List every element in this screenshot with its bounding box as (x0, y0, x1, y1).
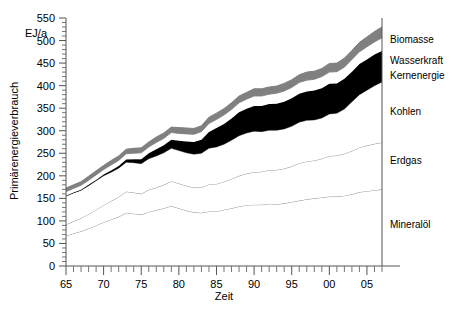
y-tick-label: 100 (37, 215, 55, 227)
x-tick-label: 85 (210, 278, 222, 290)
x-tick-label: 70 (97, 278, 109, 290)
y-tick-label: 550 (37, 12, 55, 24)
x-axis: 657075808590950005 (60, 266, 382, 290)
plot-area (66, 27, 382, 266)
x-tick-label: 75 (135, 278, 147, 290)
y-tick-label: 50 (43, 237, 55, 249)
x-tick-label: 90 (248, 278, 260, 290)
y-tick-label: 450 (37, 57, 55, 69)
x-tick-label: 00 (323, 278, 335, 290)
x-tick-label: 65 (60, 278, 72, 290)
primary-energy-consumption-chart: Primärenergieverbrauch EJ/a 050100150200… (0, 0, 452, 314)
y-axis-title: Primärenergieverbrauch (8, 82, 20, 200)
series-label-kohlen: Kohlen (390, 106, 421, 117)
chart-canvas: Primärenergieverbrauch EJ/a 050100150200… (0, 0, 452, 314)
y-tick-label: 0 (49, 260, 55, 272)
series-label-mineralöl: Mineralöl (390, 219, 431, 230)
y-tick-label: 400 (37, 80, 55, 92)
series-legend: BiomasseWasserkraftKernenergieKohlenErdg… (390, 34, 445, 230)
series-label-biomasse: Biomasse (390, 34, 434, 45)
y-tick-label: 500 (37, 35, 55, 47)
series-label-kernenergie: Kernenergie (390, 70, 445, 81)
x-axis-title: Zeit (215, 290, 233, 302)
x-tick-label: 80 (173, 278, 185, 290)
y-tick-label: 200 (37, 170, 55, 182)
y-tick-label: 300 (37, 125, 55, 137)
y-tick-label: 150 (37, 192, 55, 204)
y-tick-label: 250 (37, 147, 55, 159)
y-tick-label: 350 (37, 102, 55, 114)
x-tick-label: 05 (361, 278, 373, 290)
series-label-wasserkraft: Wasserkraft (390, 55, 443, 66)
x-tick-label: 95 (286, 278, 298, 290)
y-axis: 050100150200250300350400450500550 (37, 12, 66, 272)
series-label-erdgas: Erdgas (390, 155, 422, 166)
